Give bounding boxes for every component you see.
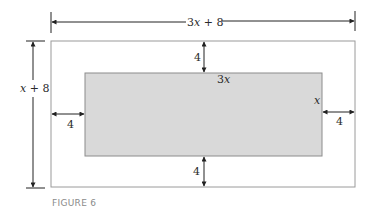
outer-height-label: x + 8: [20, 82, 49, 95]
inner-height-label: x: [314, 94, 321, 107]
right-margin-label: 4: [336, 115, 343, 128]
left-margin-label: 4: [67, 118, 74, 131]
inner-rectangle: [85, 73, 322, 156]
inner-width-label: 3x: [217, 73, 231, 86]
height-dimension: [26, 41, 45, 188]
top-margin-label: 4: [194, 51, 201, 64]
figure-caption: FIGURE 6: [52, 198, 96, 208]
figure-diagram: 3x + 8 x + 8 4 3x x 4 4 4 FIGURE 6: [0, 0, 374, 219]
outer-width-label: 3x + 8: [187, 16, 223, 29]
bottom-margin-label: 4: [193, 165, 200, 178]
